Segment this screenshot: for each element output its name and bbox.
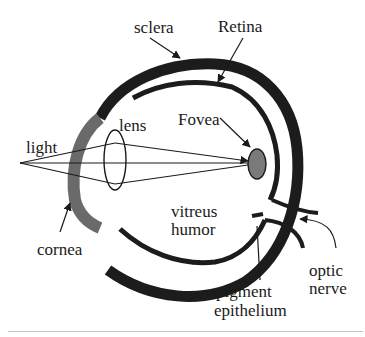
fovea-shape <box>248 149 266 179</box>
label-vitreus: vitreus <box>171 202 217 221</box>
optic-nerve-arrow <box>300 219 336 248</box>
label-nerve: nerve <box>309 279 347 298</box>
label-fovea: Fovea <box>178 110 220 129</box>
label-humor: humor <box>171 220 216 239</box>
fovea-arrow <box>220 118 250 147</box>
cornea-shape <box>74 118 100 228</box>
retina-shape <box>133 83 278 200</box>
label-optic: optic <box>309 261 343 280</box>
label-sclera: sclera <box>134 18 174 37</box>
label-pigment: pigment <box>216 282 272 301</box>
lens-shape <box>104 130 126 190</box>
label-lens: lens <box>119 116 146 135</box>
bottom-divider <box>8 331 363 332</box>
sclera-arrow <box>150 38 180 58</box>
cornea-arrow <box>60 203 70 232</box>
eye-diagram: sclera Retina lens Fovea light vitreus h… <box>0 0 365 337</box>
label-cornea: cornea <box>37 240 83 259</box>
label-light: light <box>26 138 57 157</box>
label-epithelium: epithelium <box>214 301 287 320</box>
label-retina: Retina <box>218 17 263 36</box>
